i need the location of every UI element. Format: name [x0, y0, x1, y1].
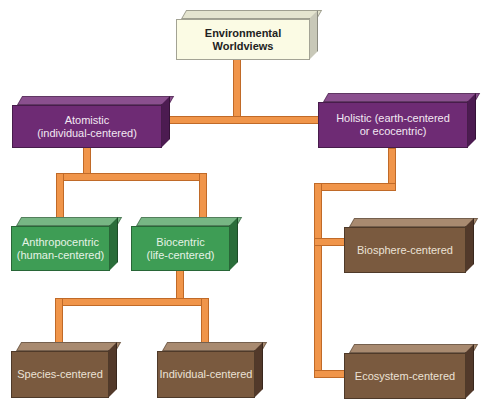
node-ecosystem-centered: Ecosystem-centered	[344, 344, 474, 399]
node-label-line2: or ecocentric)	[336, 125, 450, 138]
connector-species	[55, 298, 63, 345]
connector-leaf-bar	[55, 298, 209, 306]
node-label: Ecosystem-centered	[355, 370, 455, 383]
connector-holistic-vertical	[314, 183, 322, 378]
connector-biosphere	[314, 238, 348, 246]
node-holistic: Holistic (earth-centeredor ecocentric)	[318, 93, 476, 148]
node-label: Biosphere-centered	[357, 244, 453, 257]
node-label-line1: Holistic (earth-centered	[336, 112, 450, 125]
node-label-line2: Worldviews	[205, 40, 281, 53]
node-label-line1: Atomistic	[37, 114, 137, 127]
connector-individual	[201, 298, 209, 345]
connector-biocentric-down	[176, 268, 184, 301]
node-environmental-worldviews: EnvironmentalWorldviews	[176, 10, 318, 60]
node-label-line2: (life-centered)	[147, 249, 215, 262]
node-label-line1: Biocentric	[147, 236, 215, 249]
node-anthropocentric: Anthropocentric(human-centered)	[11, 217, 118, 271]
connector-root-down	[233, 58, 241, 123]
connector-atomistic-holistic	[168, 116, 320, 124]
node-label: Species-centered	[17, 368, 103, 381]
connector-ecosystem	[314, 370, 348, 378]
connector-anthropocentric	[56, 173, 64, 220]
connector-holistic-down	[388, 148, 396, 186]
node-label: Individual-centered	[160, 368, 253, 381]
node-atomistic: Atomistic(individual-centered)	[12, 96, 170, 148]
connector-biocentric	[199, 173, 207, 220]
connector-atomistic-down	[83, 146, 91, 176]
node-biocentric: Biocentric(life-centered)	[131, 217, 238, 271]
connector-holistic-bar	[314, 183, 396, 191]
node-species-centered: Species-centered	[11, 342, 117, 398]
node-label-line1: Anthropocentric	[17, 236, 104, 249]
node-label-line2: (human-centered)	[17, 249, 104, 262]
node-label-line2: (individual-centered)	[37, 127, 137, 140]
node-label-line1: Environmental	[205, 27, 281, 40]
node-biosphere-centered: Biosphere-centered	[344, 218, 474, 273]
node-individual-centered: Individual-centered	[157, 342, 263, 398]
connector-level2-bar	[56, 173, 207, 181]
